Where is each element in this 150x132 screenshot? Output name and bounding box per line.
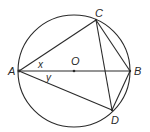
point-b-dot — [129, 70, 131, 72]
diagram-canvas: A B C D O x y — [0, 0, 150, 132]
label-d: D — [111, 114, 119, 126]
label-a: A — [7, 65, 15, 77]
angle-label-x: x — [37, 59, 44, 70]
geometry-diagram: A B C D O x y — [0, 0, 150, 132]
segment-ac — [19, 20, 96, 71]
label-o: O — [71, 55, 80, 67]
angle-label-y: y — [45, 72, 52, 83]
segment-bd — [112, 71, 130, 110]
segment-ad — [19, 71, 112, 110]
label-c: C — [95, 7, 103, 19]
point-o-dot — [73, 70, 76, 73]
point-c-dot — [95, 19, 97, 21]
segment-cd — [96, 20, 112, 110]
point-a-dot — [18, 70, 21, 73]
segment-cb — [96, 20, 130, 71]
label-b: B — [134, 65, 141, 77]
point-d-dot — [111, 109, 113, 111]
